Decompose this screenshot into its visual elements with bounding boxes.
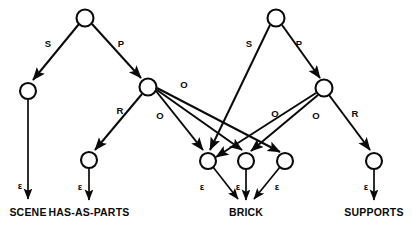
edge-o-right-to-brick1 xyxy=(216,93,316,157)
edge-o-right-to-brick2 xyxy=(251,95,318,151)
epsilon-label-brick-3: ε xyxy=(275,181,280,192)
epsilon-label-scene: ε xyxy=(18,180,23,191)
node-root-left xyxy=(77,10,94,27)
edge-p-right xyxy=(282,25,320,78)
edge-label-r-left: R xyxy=(117,105,124,116)
terminal-label-brick: BRICK xyxy=(229,206,263,218)
epsilon-label-brick-2: ε xyxy=(236,181,241,192)
edge-label-o-2: O xyxy=(156,110,163,121)
graph-canvas: S P R O O S P O O R ε ε ε ε ε ε SCENE HA… xyxy=(0,0,416,226)
edge-labels-group: S P R O O S P O O R xyxy=(45,38,359,121)
terminal-label-hasasparts: HAS-AS-PARTS xyxy=(49,206,130,218)
epsilon-labels-group: ε ε ε ε ε ε xyxy=(18,180,369,192)
terminal-label-supports: SUPPORTS xyxy=(344,206,403,218)
edge-r-left xyxy=(95,94,142,150)
edge-r-right xyxy=(329,95,370,150)
node-supports xyxy=(366,153,382,169)
epsilon-label-brick-1: ε xyxy=(200,181,205,192)
edge-o-left-to-brick2 xyxy=(157,90,242,150)
epsilon-label-supports: ε xyxy=(364,181,369,192)
edge-label-p-right: P xyxy=(296,38,303,49)
node-mid-right xyxy=(316,80,333,97)
node-root-right xyxy=(268,10,285,27)
terminal-label-scene: SCENE xyxy=(9,206,46,218)
epsilon-label-hasasparts: ε xyxy=(78,181,83,192)
terminal-labels-group: SCENE HAS-AS-PARTS BRICK SUPPORTS xyxy=(9,206,403,218)
edge-label-s-left: S xyxy=(45,38,51,49)
edge-s-left xyxy=(33,24,79,80)
node-brick-1 xyxy=(200,153,216,169)
nodes-group xyxy=(20,10,382,170)
node-hasasparts xyxy=(81,152,97,168)
edge-label-o-1: O xyxy=(180,79,187,90)
node-brick-2 xyxy=(238,153,254,169)
eps-edge-brick1 xyxy=(213,167,238,199)
edge-label-o-4: O xyxy=(312,110,319,121)
node-scene xyxy=(20,83,36,99)
node-brick-3 xyxy=(277,153,293,169)
parse-tree-diagram: S P R O O S P O O R ε ε ε ε ε ε SCENE HA… xyxy=(0,0,416,226)
edge-p-left xyxy=(92,24,141,78)
node-mid-left xyxy=(140,79,157,96)
edge-label-p-left: P xyxy=(118,38,125,49)
edge-label-o-3: O xyxy=(271,108,278,119)
edge-label-r-right: R xyxy=(352,108,359,119)
edge-label-s-right: S xyxy=(246,38,252,49)
